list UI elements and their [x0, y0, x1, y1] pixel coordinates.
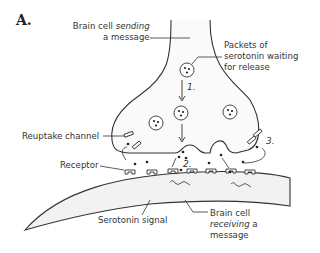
step-2-label: 2. — [183, 159, 192, 169]
label-serotonin-packets: Packets of serotonin waiting for release — [224, 40, 298, 73]
label-serotonin-signal: Serotonin signal — [98, 215, 167, 226]
label-receiving-cell: Brain cell receiving a message — [210, 208, 258, 241]
receptors — [125, 169, 255, 174]
label-reuptake-channel: Reuptake channel — [22, 131, 99, 142]
label-sending-cell: Brain cell sending a message — [72, 21, 150, 43]
step-3-label: 3. — [266, 136, 275, 146]
label-receptor: Receptor — [60, 160, 99, 171]
step-1-label: 1. — [187, 82, 196, 92]
